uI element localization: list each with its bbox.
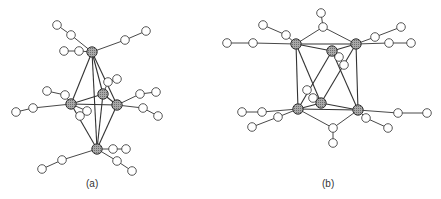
ligand-atom-icon [61, 91, 70, 100]
ligand-atom-icon [104, 78, 113, 87]
ligand-atom-icon [121, 36, 130, 45]
bond-line [296, 44, 298, 109]
ligand-atom-icon [397, 23, 406, 32]
bond-line [97, 94, 103, 149]
metal-atom-icon [351, 39, 361, 49]
ligand-atom-icon [29, 104, 38, 113]
panel-a-label: (a) [86, 178, 98, 189]
metal-atom-icon [87, 47, 97, 57]
ligand-atom-icon [394, 109, 403, 118]
ligand-atom-icon [142, 27, 151, 36]
ligand-atom-icon [113, 157, 122, 166]
ligand-atom-icon [385, 39, 394, 48]
bond-line [298, 109, 358, 110]
ligand-atom-icon [362, 114, 371, 123]
ligand-atom-icon [154, 112, 163, 121]
ligand-atom-icon [329, 124, 338, 133]
metal-atom-icon [293, 104, 303, 114]
metal-atom-icon [353, 105, 363, 115]
ligand-atom-icon [238, 108, 247, 117]
metal-atom-icon [291, 39, 301, 49]
bonds-layer [16, 25, 158, 171]
metal-atom-icon [98, 89, 108, 99]
ligand-atom-icon [384, 124, 393, 133]
bond-line [71, 52, 92, 104]
ligand-atom-icon [249, 39, 258, 48]
ligand-atom-icon [303, 86, 312, 95]
ligand-atom-icon [259, 21, 268, 30]
ligand-atom-icon [248, 123, 257, 132]
bonds-layer [227, 13, 427, 143]
ligand-atom-icon [128, 167, 137, 176]
ligand-atom-icon [113, 75, 122, 84]
ligand-atom-icon [136, 90, 145, 99]
bond-line [253, 43, 296, 44]
panel-b-cluster [223, 9, 432, 148]
ligand-atom-icon [371, 33, 380, 42]
ligand-atom-icon [67, 31, 76, 40]
metal-atom-icon [316, 98, 326, 108]
ligand-atom-icon [329, 139, 338, 148]
ligand-atom-icon [38, 165, 47, 174]
ligand-atom-icon [12, 108, 21, 117]
bond-line [358, 110, 398, 113]
metal-atom-icon [92, 144, 102, 154]
ligand-atom-icon [319, 23, 328, 32]
ligand-atom-icon [53, 21, 62, 30]
panel-a-cluster [12, 21, 163, 176]
molecular-structure-diagram [0, 0, 441, 199]
metal-atom-icon [66, 99, 76, 109]
ligand-atom-icon [76, 112, 85, 121]
ligand-atom-icon [58, 156, 67, 165]
ligand-atom-icon [407, 39, 416, 48]
ligand-atom-icon [139, 104, 148, 113]
ligand-atom-icon [109, 145, 118, 154]
atoms-layer [223, 9, 432, 148]
ligand-atom-icon [317, 9, 326, 18]
ligand-atom-icon [282, 31, 291, 40]
ligand-atom-icon [122, 145, 131, 154]
metal-atom-icon [327, 46, 337, 56]
ligand-atom-icon [43, 87, 52, 96]
bond-line [356, 44, 358, 110]
ligand-atom-icon [75, 47, 84, 56]
panel-b-label: (b) [322, 178, 334, 189]
bond-line [33, 104, 71, 108]
bond-line [71, 104, 117, 105]
bond-line [97, 105, 117, 149]
ligand-atom-icon [223, 39, 232, 48]
ligand-atom-icon [60, 47, 69, 56]
ligand-atom-icon [423, 109, 432, 118]
metal-atom-icon [112, 100, 122, 110]
ligand-atom-icon [274, 113, 283, 122]
ligand-atom-icon [152, 88, 161, 97]
bond-line [298, 109, 333, 128]
ligand-atom-icon [340, 61, 349, 70]
ligand-atom-icon [258, 108, 267, 117]
